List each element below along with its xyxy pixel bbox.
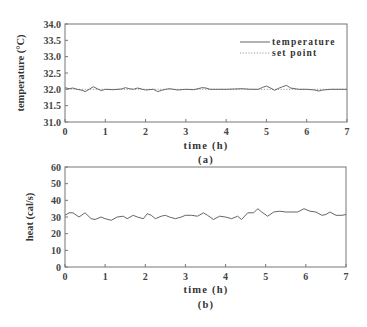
x-tick-label: 7 — [344, 271, 349, 282]
panel-label-a: (a) — [198, 154, 214, 166]
x-tick-label: 2 — [143, 271, 148, 282]
plot-frame-b — [65, 167, 346, 267]
y-axis-ticks-a: 31.031.532.032.533.033.534.0 — [44, 19, 69, 128]
y-tick-label: 31.0 — [44, 117, 62, 128]
y-tick-label: 40 — [51, 195, 61, 206]
y-tick-label: 60 — [51, 162, 61, 173]
y-tick-label: 33.5 — [44, 35, 62, 46]
x-axis-label-a: time (h) — [184, 140, 229, 152]
legend: temperature set point — [240, 37, 336, 58]
y-tick-label: 20 — [51, 228, 61, 239]
panel-label-b: (b) — [198, 299, 214, 311]
y-tick-label: 31.5 — [44, 100, 62, 111]
x-tick-label: 4 — [223, 271, 228, 282]
x-tick-label: 1 — [103, 271, 108, 282]
y-tick-label: 32.0 — [44, 84, 62, 95]
x-tick-label: 5 — [264, 126, 269, 137]
panel-b: 0102030405060 01234567 heat (cal/s) time… — [24, 162, 349, 312]
x-tick-label: 3 — [183, 271, 188, 282]
legend-temperature-label: temperature — [272, 37, 336, 47]
x-tick-label: 0 — [63, 271, 68, 282]
y-tick-label: 32.5 — [44, 68, 62, 79]
x-axis-label-b: time (h) — [184, 284, 229, 296]
x-tick-label: 7 — [345, 126, 350, 137]
y-axis-label-b: heat (cal/s) — [24, 192, 36, 241]
x-tick-label: 0 — [63, 126, 68, 137]
figure: 31.031.532.032.533.033.534.0 01234567 te… — [0, 0, 367, 327]
x-tick-label: 5 — [263, 271, 268, 282]
legend-set-point-label: set point — [272, 48, 317, 58]
temperature-series — [65, 85, 347, 91]
x-tick-label: 2 — [143, 126, 148, 137]
heat-series — [65, 209, 346, 221]
y-tick-label: 30 — [51, 212, 61, 223]
y-tick-label: 50 — [51, 178, 61, 189]
y-axis-label-a: temperature (°C) — [15, 34, 27, 112]
x-tick-label: 6 — [303, 271, 308, 282]
y-tick-label: 10 — [51, 245, 61, 256]
x-tick-label: 4 — [224, 126, 229, 137]
y-tick-label: 0 — [56, 262, 61, 273]
x-tick-label: 6 — [304, 126, 309, 137]
y-tick-label: 34.0 — [44, 19, 62, 30]
x-tick-label: 3 — [183, 126, 188, 137]
panel-a: 31.031.532.032.533.033.534.0 01234567 te… — [15, 19, 350, 167]
y-tick-label: 33.0 — [44, 51, 62, 62]
x-tick-label: 1 — [103, 126, 108, 137]
